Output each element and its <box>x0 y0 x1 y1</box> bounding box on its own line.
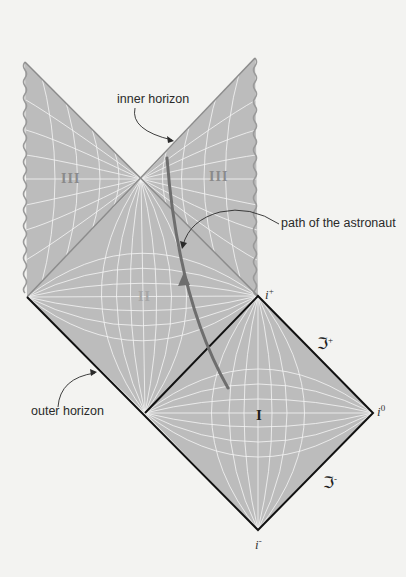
outer-horizon-leader <box>58 373 95 407</box>
scri-plus-base: ℑ <box>317 335 328 352</box>
region-III-right-label: III <box>209 170 228 184</box>
i-plus-sup: + <box>269 286 274 296</box>
penrose-diagram <box>0 0 406 577</box>
i-minus-label: i- <box>255 537 262 551</box>
outer-horizon-label: outer horizon <box>31 405 104 418</box>
scri-plus-sup: + <box>328 335 333 345</box>
inner-horizon-leader <box>134 108 172 140</box>
region-I-label: I <box>256 408 263 423</box>
inner-horizon-label: inner horizon <box>117 93 189 106</box>
scri-minus-sup: - <box>334 474 337 484</box>
i-zero-sup: 0 <box>381 403 386 413</box>
inner-horizon-leader-arrow-icon <box>167 136 174 143</box>
region-III-left-label: III <box>61 172 80 186</box>
i-minus-sup: - <box>259 536 262 546</box>
outer-horizon-leader-arrow-icon <box>90 369 97 376</box>
i-plus-label: i+ <box>265 287 274 301</box>
scri-minus-base: ℑ <box>323 474 334 491</box>
i-zero-label: i0 <box>377 404 385 418</box>
scri-minus-label: ℑ- <box>323 475 337 491</box>
region-II-label: II <box>138 290 151 304</box>
astronaut-path-label: path of the astronaut <box>281 217 396 230</box>
scri-plus-label: ℑ+ <box>317 336 333 352</box>
region-fills <box>25 58 373 530</box>
